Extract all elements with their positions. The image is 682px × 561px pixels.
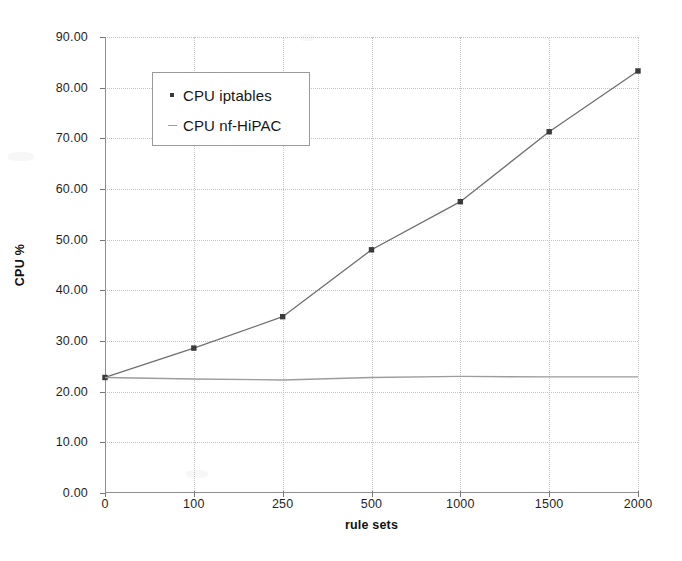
data-point-marker bbox=[635, 68, 640, 73]
y-axis-tick-label: 10.00 bbox=[56, 435, 88, 449]
legend-item-nf-hipac: CPU nf-HiPAC bbox=[163, 110, 309, 140]
x-axis-tick-label: 250 bbox=[272, 497, 293, 511]
x-axis-tick-label: 1000 bbox=[446, 497, 475, 511]
y-axis-tick-label: 80.00 bbox=[56, 81, 88, 95]
y-axis-tick-label: 70.00 bbox=[56, 131, 88, 145]
dash-line-icon bbox=[163, 125, 181, 126]
series-line bbox=[105, 376, 638, 380]
y-axis-tick-label: 20.00 bbox=[56, 385, 88, 399]
y-axis-tick-label: 60.00 bbox=[56, 182, 88, 196]
data-point-marker bbox=[280, 314, 285, 319]
x-axis-tick-label: 2000 bbox=[624, 497, 653, 511]
square-marker-icon bbox=[163, 93, 181, 97]
cpu-comparison-chart: CPU % 0.0010.0020.0030.0040.0050.0060.00… bbox=[0, 0, 682, 561]
x-axis-tick-label: 500 bbox=[361, 497, 382, 511]
y-axis-tick-label: 90.00 bbox=[56, 30, 88, 44]
y-axis-tick-labels: 0.0010.0020.0030.0040.0050.0060.0070.008… bbox=[0, 37, 100, 493]
x-axis-title: rule sets bbox=[105, 518, 638, 532]
x-axis-tick-label: 100 bbox=[183, 497, 204, 511]
y-axis-tick-label: 30.00 bbox=[56, 334, 88, 348]
gridline-vertical bbox=[638, 37, 639, 493]
x-axis-tick-label: 0 bbox=[101, 497, 108, 511]
data-point-marker bbox=[191, 345, 196, 350]
legend-label-nf-hipac: CPU nf-HiPAC bbox=[183, 117, 281, 134]
y-axis-tick-label: 0.00 bbox=[63, 486, 88, 500]
legend-item-iptables: CPU iptables bbox=[163, 80, 309, 110]
y-axis-tick-label: 50.00 bbox=[56, 233, 88, 247]
x-axis-tick-label: 1500 bbox=[535, 497, 564, 511]
chart-legend: CPU iptables CPU nf-HiPAC bbox=[152, 72, 310, 146]
data-point-marker bbox=[369, 247, 374, 252]
y-axis-tick-label: 40.00 bbox=[56, 283, 88, 297]
x-axis-tick-labels: 0100250500100015002000 bbox=[105, 497, 638, 519]
data-point-marker bbox=[546, 129, 551, 134]
data-point-marker bbox=[458, 199, 463, 204]
legend-label-iptables: CPU iptables bbox=[183, 87, 272, 104]
